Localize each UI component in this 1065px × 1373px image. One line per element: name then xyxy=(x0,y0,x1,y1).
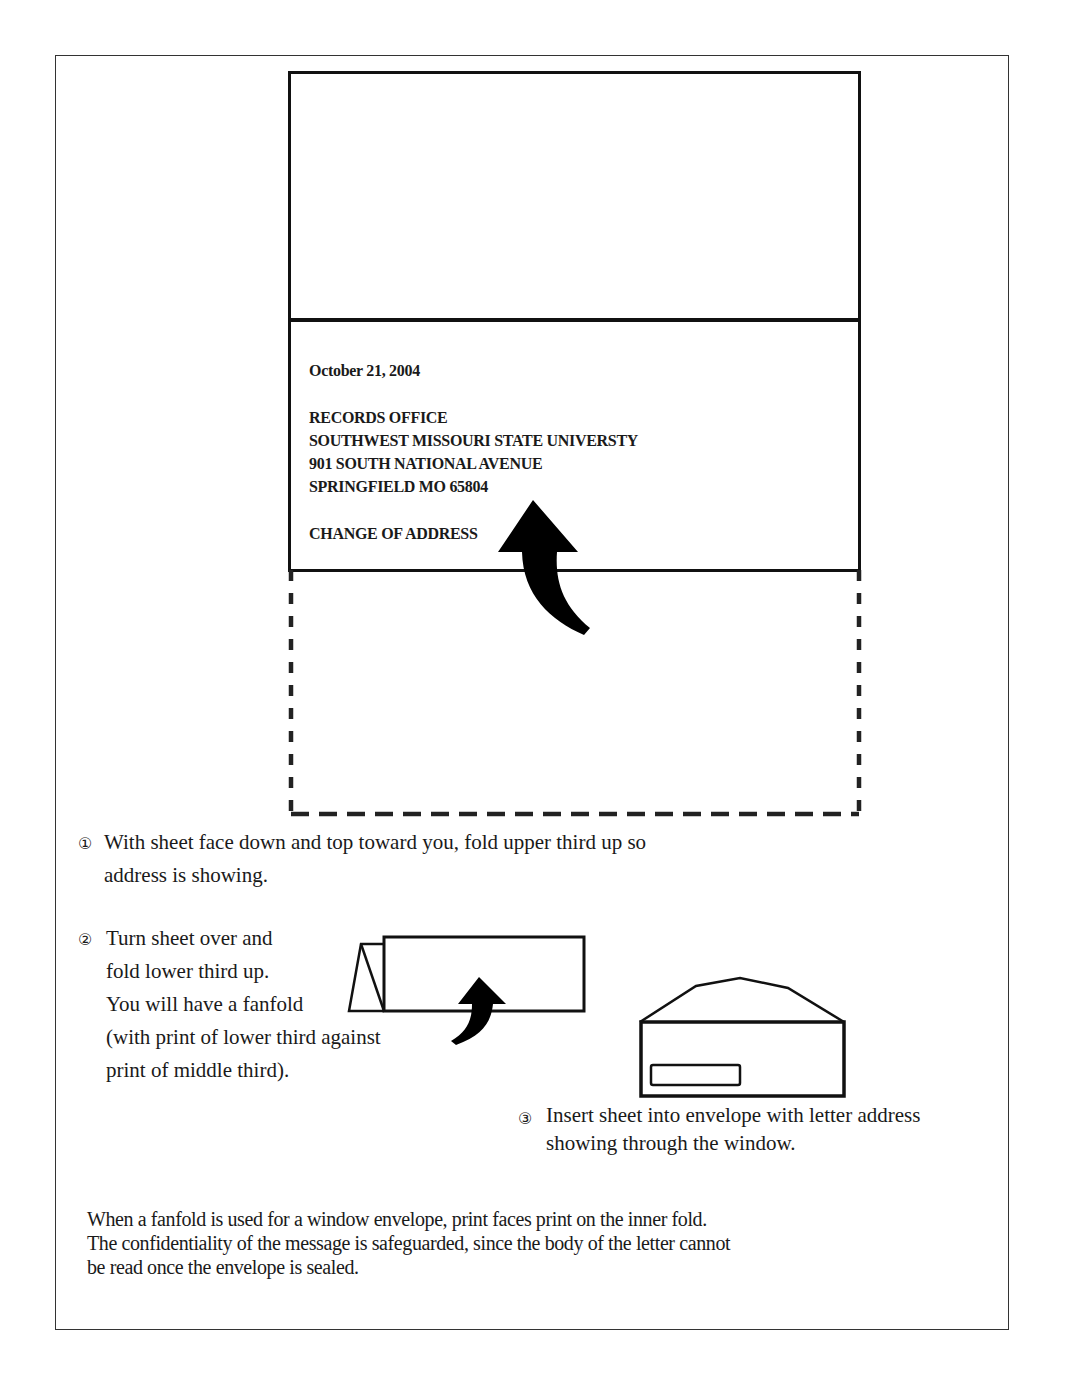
step-text-line: fold lower third up. xyxy=(106,955,269,988)
letter-subject: CHANGE OF ADDRESS xyxy=(309,525,478,543)
step-text-line: Turn sheet over and xyxy=(106,922,273,955)
curved-up-arrow-icon xyxy=(448,977,513,1047)
step-text-line: print of middle third). xyxy=(106,1054,289,1087)
step-text-line: (with print of lower third against xyxy=(106,1021,381,1054)
step-number: ① xyxy=(78,834,92,853)
address-line: 901 SOUTH NATIONAL AVENUE xyxy=(309,455,542,473)
step-text-line: With sheet face down and top toward you,… xyxy=(104,826,646,859)
address-line: SPRINGFIELD MO 65804 xyxy=(309,478,488,496)
step-number: ③ xyxy=(518,1109,532,1128)
step-text-line: You will have a fanfold xyxy=(106,988,303,1021)
address-line: SOUTHWEST MISSOURI STATE UNIVERSTY xyxy=(309,432,638,450)
step-number: ② xyxy=(78,930,92,949)
letter-date: October 21, 2004 xyxy=(309,362,420,380)
step-text-line: address is showing. xyxy=(104,859,268,892)
curved-up-arrow-icon xyxy=(490,500,600,640)
step-text-line: Insert sheet into envelope with letter a… xyxy=(546,1101,920,1129)
note-line: be read once the envelope is sealed. xyxy=(87,1253,359,1281)
address-line: RECORDS OFFICE xyxy=(309,409,447,427)
step-text-line: showing through the window. xyxy=(546,1129,795,1157)
window-envelope-icon xyxy=(638,976,848,1101)
sheet-upper-third xyxy=(288,71,861,322)
